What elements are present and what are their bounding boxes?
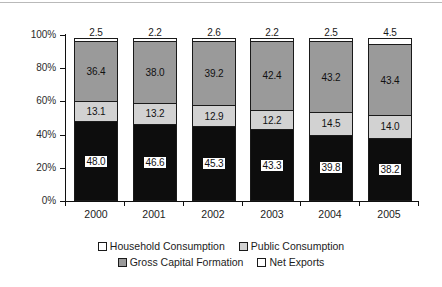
bar-segment-household-consumption-2002[interactable]: 45.3: [192, 126, 236, 201]
y-tick-label-60: 60%: [4, 96, 56, 106]
bar-segment-label-household-2005: 38.2: [379, 164, 400, 175]
bar-segment-label-gross-2000: 36.4: [86, 66, 105, 77]
bar-top-value-2004: 2.5: [309, 27, 353, 38]
legend-label-gross: Gross Capital Formation: [130, 256, 244, 268]
bar-segment-public-consumption-2003[interactable]: 12.2: [250, 110, 294, 130]
legend-item-gross-capital-formation[interactable]: Gross Capital Formation: [118, 256, 244, 268]
bar-segment-label-gross-2003: 42.4: [262, 70, 281, 81]
chart-legend: Household Consumption Public Consumption…: [0, 240, 442, 268]
x-tick-mark-2: [183, 201, 184, 206]
y-tick-label-100: 100%: [4, 30, 56, 40]
bar-top-value-2003: 2.2: [250, 27, 294, 38]
x-tick-mark-6: [418, 201, 419, 206]
bar-column-2003[interactable]: 2.2 42.4 12.2 43.3: [250, 39, 294, 201]
legend-item-public-consumption[interactable]: Public Consumption: [239, 240, 344, 252]
legend-label-net: Net Exports: [269, 256, 324, 268]
y-tick-label-40: 40%: [4, 130, 56, 140]
bar-segment-household-consumption-2001[interactable]: 46.6: [133, 124, 177, 201]
bar-segment-gross-capital-formation-2001[interactable]: 38.0: [133, 41, 177, 104]
x-tick-mark-3: [242, 201, 243, 206]
bar-column-2002[interactable]: 2.6 39.2 12.9 45.3: [192, 39, 236, 201]
bar-column-2004[interactable]: 2.5 43.2 14.5 39.8: [309, 39, 353, 201]
x-axis-label-2004: 2004: [300, 208, 360, 220]
legend-row-1: Household Consumption Public Consumption: [98, 240, 344, 252]
x-tick-mark-1: [124, 201, 125, 206]
bar-segment-label-public-2002: 12.9: [204, 111, 223, 122]
x-axis-label-2005: 2005: [359, 208, 419, 220]
bar-segment-public-consumption-2001[interactable]: 13.2: [133, 103, 177, 125]
bar-segment-label-gross-2001: 38.0: [145, 67, 164, 78]
legend-label-public: Public Consumption: [251, 240, 344, 252]
y-tick-label-0: 0%: [4, 196, 56, 206]
bar-column-2005[interactable]: 4.5 43.4 14.0 38.2: [368, 39, 412, 201]
bar-segment-gross-capital-formation-2000[interactable]: 36.4: [74, 41, 118, 101]
bar-segment-label-gross-2005: 43.4: [380, 75, 399, 86]
bar-segment-label-public-2001: 13.2: [145, 108, 164, 119]
bar-segment-gross-capital-formation-2004[interactable]: 43.2: [309, 41, 353, 113]
x-tick-mark-5: [359, 201, 360, 206]
bar-segment-label-household-2004: 39.8: [320, 162, 341, 173]
x-tick-mark-0: [65, 201, 66, 206]
bar-segment-label-public-2003: 12.2: [262, 115, 281, 126]
bar-segment-gross-capital-formation-2003[interactable]: 42.4: [250, 41, 294, 111]
bar-segment-household-consumption-2000[interactable]: 48.0: [74, 121, 118, 201]
bar-top-value-2000: 2.5: [74, 27, 118, 38]
legend-row-2: Gross Capital Formation Net Exports: [118, 256, 325, 268]
legend-swatch-icon-gross: [118, 258, 127, 267]
bar-segment-household-consumption-2004[interactable]: 39.8: [309, 135, 353, 201]
bar-segment-gross-capital-formation-2005[interactable]: 43.4: [368, 44, 412, 116]
legend-item-net-exports[interactable]: Net Exports: [257, 256, 324, 268]
bar-top-value-2005: 4.5: [368, 27, 412, 38]
bar-column-2001[interactable]: 2.2 38.0 13.2 46.6: [133, 39, 177, 201]
x-axis-label-2001: 2001: [124, 208, 184, 220]
bar-segment-label-household-2003: 43.3: [261, 160, 282, 171]
legend-item-household-consumption[interactable]: Household Consumption: [98, 240, 225, 252]
x-axis-label-2002: 2002: [183, 208, 243, 220]
legend-swatch-icon-household: [98, 242, 107, 251]
top-divider: [0, 2, 442, 3]
bar-segment-label-public-2000: 13.1: [86, 106, 105, 117]
bar-segment-public-consumption-2000[interactable]: 13.1: [74, 101, 118, 123]
x-tick-mark-4: [300, 201, 301, 206]
y-tick-label-80: 80%: [4, 63, 56, 73]
bar-column-2000[interactable]: 2.5 36.4 13.1 48.0: [74, 39, 118, 201]
bar-segment-label-household-2000: 48.0: [85, 156, 106, 167]
bar-top-value-2002: 2.6: [192, 27, 236, 38]
bar-segment-household-consumption-2005[interactable]: 38.2: [368, 138, 412, 201]
bar-segment-label-household-2002: 45.3: [203, 158, 224, 169]
bar-segment-household-consumption-2003[interactable]: 43.3: [250, 129, 294, 201]
bar-segment-public-consumption-2002[interactable]: 12.9: [192, 105, 236, 126]
x-axis-label-2003: 2003: [242, 208, 302, 220]
bar-segment-label-gross-2004: 43.2: [321, 72, 340, 83]
bar-segment-label-household-2001: 46.6: [144, 157, 165, 168]
legend-label-household: Household Consumption: [110, 240, 225, 252]
bar-top-value-2001: 2.2: [133, 27, 177, 38]
legend-swatch-icon-net: [257, 258, 266, 267]
legend-swatch-icon-public: [239, 242, 248, 251]
bar-segment-public-consumption-2005[interactable]: 14.0: [368, 115, 412, 138]
bar-segment-public-consumption-2004[interactable]: 14.5: [309, 112, 353, 136]
bar-segment-gross-capital-formation-2002[interactable]: 39.2: [192, 41, 236, 106]
x-axis-label-2000: 2000: [66, 208, 126, 220]
y-tick-label-20: 20%: [4, 163, 56, 173]
bar-segment-label-gross-2002: 39.2: [204, 68, 223, 79]
bar-segment-label-public-2005: 14.0: [380, 121, 399, 132]
plot-area: 2.5 36.4 13.1 48.0 2.2 38.0 13.2 46.6: [66, 35, 418, 201]
bar-segment-label-public-2004: 14.5: [321, 118, 340, 129]
stacked-bar-chart: 100% 80% 60% 40% 20% 0% 2.5 36.4 13.1 48…: [0, 0, 442, 287]
